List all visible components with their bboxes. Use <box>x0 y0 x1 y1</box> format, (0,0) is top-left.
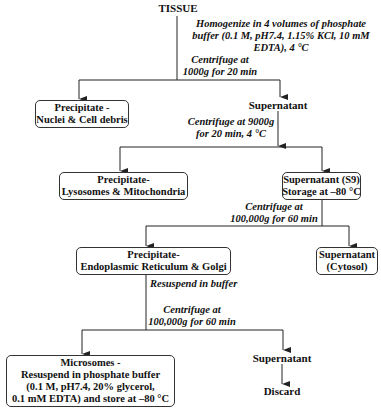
centrifuge-4-line-1: Centrifuge at <box>147 304 237 316</box>
precipitate-lysosomes-box: Precipitate- Lysosomes & Mitochondria <box>59 172 188 200</box>
discard-label: Discard <box>257 385 307 397</box>
supernatant-s9-line-1: Supernatant (S9) <box>283 174 360 186</box>
centrifuge-step-2: Centrifuge at 9000g for 20 min, 4 °C <box>186 116 276 140</box>
microsomes-line-2: Resuspend in phosphate buffer <box>21 369 160 381</box>
centrifuge-3-line-1: Centrifuge at <box>228 201 320 213</box>
centrifuge-3-line-2: 100,000g for 60 min <box>228 213 320 225</box>
precipitate-er-line-2: Endoplasmic Reticulum & Golgi <box>80 261 226 273</box>
microsomes-line-4: 0.1 mM EDTA) and store at –80 °C <box>12 393 169 405</box>
homogenize-line-3: EDTA), 4 °C <box>183 42 379 54</box>
supernatant-cytosol-line-2: (Cytosol) <box>327 261 368 273</box>
precipitate-lysosomes-line-1: Precipitate- <box>97 174 149 186</box>
precipitate-er-golgi-box: Precipitate- Endoplasmic Reticulum & Gol… <box>76 247 231 275</box>
microsomes-box: Microsomes - Resuspend in phosphate buff… <box>6 355 175 407</box>
supernatant-s9-box: Supernatant (S9) Storage at –80 °C <box>282 172 361 200</box>
centrifuge-2-line-1: Centrifuge at 9000g <box>186 116 276 128</box>
precipitate-er-line-1: Precipitate- <box>127 249 179 261</box>
supernatant-cytosol-box: Supernatant (Cytosol) <box>316 247 378 275</box>
precipitate-lysosomes-line-2: Lysosomes & Mitochondria <box>62 186 186 198</box>
precipitate-nuclei-line-1: Precipitate - <box>55 102 110 114</box>
centrifuge-2-line-2: for 20 min, 4 °C <box>186 128 276 140</box>
centrifuge-step-1: Centrifuge at 1000g for 20 min <box>180 54 260 78</box>
supernatant-s9-line-2: Storage at –80 °C <box>282 186 361 198</box>
homogenize-line-2: buffer (0.1 M, pH7.4, 1.15% KCl, 10 mM <box>183 30 379 42</box>
precipitate-nuclei-line-2: Nuclei & Cell debris <box>36 114 127 126</box>
microsomes-line-3: (0.1 M, pH7.4, 20% glycerol, <box>26 381 154 393</box>
centrifuge-1-line-1: Centrifuge at <box>180 54 260 66</box>
precipitate-nuclei-box: Precipitate - Nuclei & Cell debris <box>35 100 129 128</box>
homogenize-line-1: Homogenize in 4 volumes of phosphate <box>183 18 379 30</box>
supernatant-cytosol-line-1: Supernatant <box>319 249 375 261</box>
centrifuge-step-4: Centrifuge at 100,000g for 60 min <box>147 304 237 328</box>
resuspend-step: Resuspend in buffer <box>150 278 237 290</box>
centrifuge-1-line-2: 1000g for 20 min <box>180 66 260 78</box>
homogenize-step: Homogenize in 4 volumes of phosphate buf… <box>183 18 379 54</box>
supernatant-2-label: Supernatant <box>249 352 315 364</box>
centrifuge-step-3: Centrifuge at 100,000g for 60 min <box>228 201 320 225</box>
centrifuge-4-line-2: 100,000g for 60 min <box>147 316 237 328</box>
tissue-label: TISSUE <box>150 2 206 14</box>
microsomes-line-1: Microsomes - <box>60 357 120 369</box>
supernatant-1-label: Supernatant <box>245 99 311 111</box>
